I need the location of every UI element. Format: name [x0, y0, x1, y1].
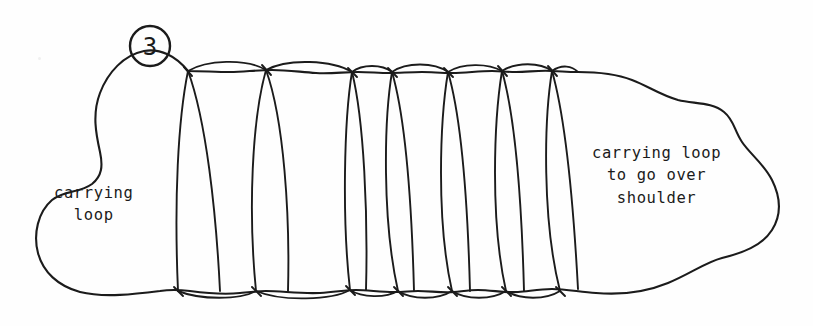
- coil-strand-right-7: [552, 71, 578, 289]
- figure-number-badge: 3: [130, 26, 170, 66]
- label-carrying-loop-left: carrying loop: [54, 182, 133, 227]
- coil-strand-left-3: [345, 72, 352, 290]
- coil-strand-right-1: [188, 71, 220, 291]
- coil-strand-left-6: [495, 71, 506, 291]
- coil-strand-right-6: [502, 71, 524, 291]
- coil-strand-left-1: [176, 71, 188, 291]
- coil-strand-left-7: [546, 71, 560, 291]
- coil-strand-right-2: [266, 70, 288, 291]
- coil-top-arc-1: [188, 62, 266, 71]
- coil-top-arc-4: [392, 65, 448, 73]
- coil-strand-left-5: [441, 72, 452, 291]
- coil-strand-left-4: [386, 72, 398, 291]
- illustration-page: 3 carrying loop carrying loop to go over…: [0, 0, 813, 326]
- coil-strand-right-4: [392, 72, 414, 291]
- coil-strand-left-2: [252, 70, 266, 291]
- coil-strand-right-5: [448, 72, 470, 291]
- badge-number: 3: [143, 33, 157, 61]
- label-carrying-loop-right: carrying loop to go over shoulder: [592, 142, 721, 209]
- coil-strand-right-3: [352, 72, 366, 290]
